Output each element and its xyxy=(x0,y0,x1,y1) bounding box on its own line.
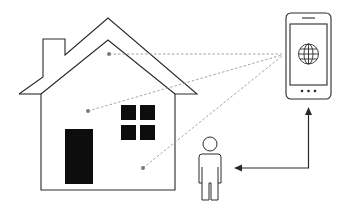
house-icon xyxy=(19,18,197,190)
link-low-to-phone xyxy=(143,56,282,168)
arrow-up-icon xyxy=(305,107,312,115)
person-head xyxy=(203,137,217,151)
link-mid-to-phone xyxy=(88,55,282,111)
door-icon xyxy=(65,129,93,184)
roof-inner xyxy=(41,40,175,94)
wireless-links xyxy=(88,54,282,168)
notification-connector xyxy=(241,114,309,168)
roof-outer xyxy=(19,18,197,94)
sensor-dot-icon xyxy=(107,52,111,56)
sensor-dot-icon xyxy=(141,166,145,170)
sensor-dot-icon xyxy=(86,109,90,113)
arrow-left-icon xyxy=(234,165,242,172)
phone-home-dots xyxy=(301,90,317,93)
sensors xyxy=(86,52,145,170)
globe-icon xyxy=(299,44,319,64)
person-body xyxy=(199,154,221,200)
window-icon xyxy=(121,105,155,140)
person-icon xyxy=(199,137,221,200)
smart-home-diagram xyxy=(0,0,346,211)
